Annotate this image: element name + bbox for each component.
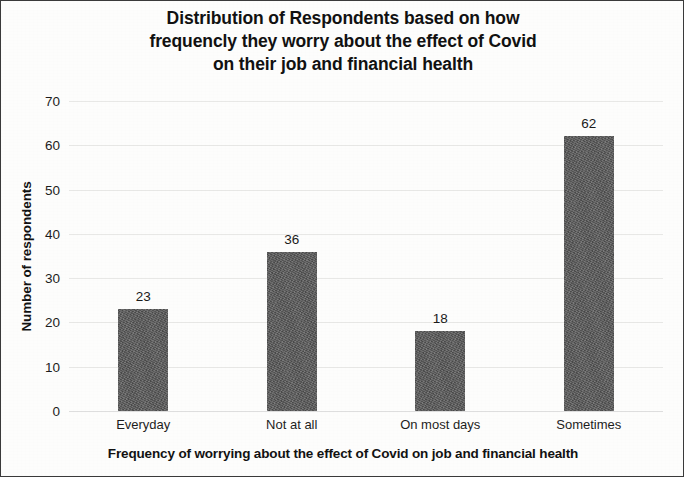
bar-value-label: 18 (433, 311, 448, 326)
y-axis-tick-label: 60 (45, 138, 60, 153)
chart-title: Distribution of Respondents based on how… (35, 7, 651, 76)
bar-slot: 23 (69, 101, 218, 411)
bar-slot: 62 (515, 101, 664, 411)
x-axis-tick-label: On most days (366, 417, 515, 439)
chart-figure: Distribution of Respondents based on how… (0, 0, 684, 477)
bar-value-label: 23 (136, 289, 151, 304)
y-axis-tick-label: 10 (45, 359, 60, 374)
x-axis-tick-labels: EverydayNot at allOn most daysSometimes (69, 417, 663, 439)
chart-title-line-2: frequencly they worry about the effect o… (35, 30, 651, 53)
bar[interactable] (564, 136, 614, 411)
x-axis-tick-label: Not at all (218, 417, 367, 439)
bar-value-label: 62 (581, 116, 596, 131)
bar-slot: 18 (366, 101, 515, 411)
y-axis-title: Number of respondents (17, 101, 35, 411)
y-axis-title-label: Number of respondents (19, 181, 34, 331)
bar[interactable] (415, 331, 465, 411)
y-axis-tick-label: 70 (45, 94, 60, 109)
x-axis-tick-label: Everyday (69, 417, 218, 439)
x-axis-tick-label: Sometimes (515, 417, 664, 439)
bar-slot: 36 (218, 101, 367, 411)
y-axis-tick-label: 0 (52, 404, 60, 419)
y-axis-tick-label: 20 (45, 315, 60, 330)
y-axis-tick-label: 40 (45, 226, 60, 241)
bars-group: 23361862 (69, 101, 663, 411)
x-axis-title: Frequency of worrying about the effect o… (35, 446, 651, 461)
bar-value-label: 36 (284, 232, 299, 247)
y-axis-tick-label: 50 (45, 182, 60, 197)
chart-title-line-1: Distribution of Respondents based on how (35, 7, 651, 30)
chart-title-line-3: on their job and financial health (35, 53, 651, 76)
bar[interactable] (118, 309, 168, 411)
gridline (69, 411, 663, 412)
plot-area: 706050403020100 23361862 (69, 101, 663, 411)
bar[interactable] (267, 252, 317, 411)
y-axis-tick-label: 30 (45, 271, 60, 286)
